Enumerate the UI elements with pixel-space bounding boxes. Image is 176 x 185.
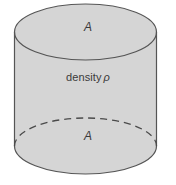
cylinder-top-face [15,4,157,60]
cylinder-illustration [0,0,176,185]
cylinder-figure: A densityρ A [0,0,176,185]
